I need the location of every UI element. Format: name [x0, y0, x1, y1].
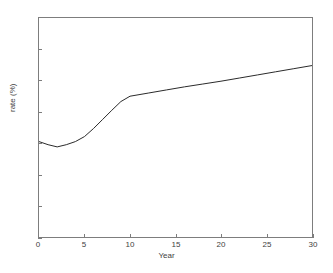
- y-axis-label: rate (%): [9, 84, 17, 112]
- x-tick-label: 10: [120, 241, 140, 249]
- x-tick-label: 30: [303, 241, 323, 249]
- x-tick-label: 0: [28, 241, 48, 249]
- data-line-svg: [39, 18, 312, 237]
- x-axis-label: Year: [0, 252, 333, 260]
- data-series-rate-line: [39, 66, 312, 147]
- x-tick-label: 5: [74, 241, 94, 249]
- x-tick-label: 20: [211, 241, 231, 249]
- x-tick-label: 15: [166, 241, 186, 249]
- plot-area: [38, 17, 313, 238]
- x-tick: [313, 234, 314, 238]
- x-tick-label: 25: [257, 241, 277, 249]
- y-tick: [38, 238, 42, 239]
- chart-figure: 4.74.84.955.15.25.35.4 051015202530 rate…: [0, 0, 333, 273]
